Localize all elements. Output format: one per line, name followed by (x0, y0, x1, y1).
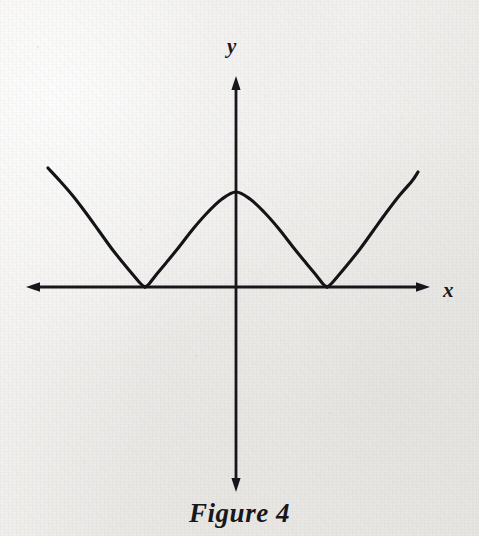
x-axis-right-arrowhead (416, 282, 430, 292)
cycloid-figure-graphic (0, 0, 479, 536)
figure-caption: Figure 4 (0, 498, 479, 529)
x-axis-label: x (443, 280, 454, 301)
y-axis-top-arrowhead (231, 76, 240, 90)
cycloid-right-partial-arch (327, 172, 418, 287)
cycloid-curve (48, 168, 418, 287)
y-axis (231, 76, 240, 492)
y-axis-label: y (227, 36, 236, 57)
figure-page: y x Figure 4 (0, 0, 479, 536)
y-axis-bottom-arrowhead (231, 478, 240, 492)
x-axis-left-arrowhead (26, 282, 40, 292)
x-axis (26, 282, 430, 292)
cycloid-left-partial-arch (48, 168, 145, 287)
